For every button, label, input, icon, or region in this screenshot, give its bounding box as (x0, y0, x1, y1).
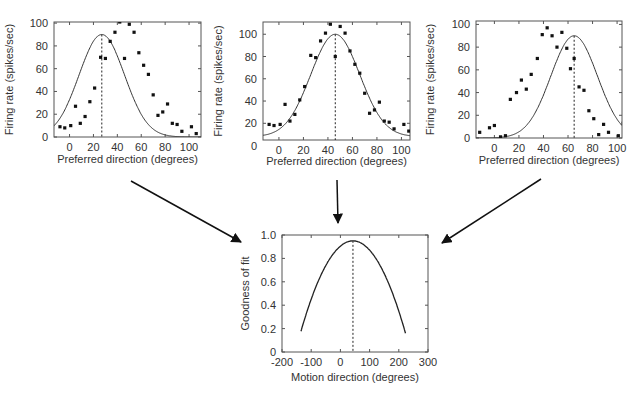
x-tick-label: 60 (135, 141, 147, 153)
data-point (319, 39, 322, 42)
y-tick-label: 0.6 (261, 276, 276, 288)
data-point (334, 55, 337, 58)
y-tick-label: 0 (270, 346, 276, 358)
x-tick-label: 100 (180, 141, 198, 153)
x-tick-label: 80 (159, 141, 171, 153)
x-tick-label: 0 (66, 141, 72, 153)
data-point (324, 32, 327, 35)
data-point (69, 124, 72, 127)
y-tick-label: 80 (36, 40, 48, 52)
data-point (358, 72, 361, 75)
panel-left-chart: 020406080100020406080100Preferred direct… (3, 17, 201, 165)
data-point (602, 123, 605, 126)
data-point (378, 101, 381, 104)
data-point (166, 102, 169, 105)
data-point (388, 121, 391, 124)
data-point (348, 49, 351, 52)
data-point (109, 40, 112, 43)
y-tick-label: 20 (245, 117, 257, 129)
x-tick-label: 100 (608, 142, 626, 154)
data-point (402, 123, 405, 126)
data-point (597, 133, 600, 136)
x-tick-label: 20 (87, 141, 99, 153)
panel-right-chart: 020406080100020406080100Preferred direct… (424, 18, 626, 166)
data-point (587, 109, 590, 112)
data-point (607, 131, 610, 134)
data-point (180, 130, 183, 133)
data-point (104, 57, 107, 60)
data-point (363, 92, 366, 95)
data-point (279, 123, 282, 126)
data-point (79, 122, 82, 125)
data-point (303, 85, 306, 88)
data-point (343, 32, 346, 35)
x-axis-label: Preferred direction (degrees) (57, 153, 198, 165)
figure-canvas: 020406080100020406080100Preferred direct… (0, 0, 637, 402)
data-point (137, 51, 140, 54)
data-point (368, 112, 371, 115)
data-point (546, 26, 549, 29)
arrow-right-to-bottom (442, 179, 541, 243)
y-tick-label: 0.2 (261, 323, 276, 335)
data-point (298, 98, 301, 101)
x-axis-label: Preferred direction (degrees) (266, 155, 407, 167)
arrow-middle-to-bottom (337, 180, 338, 223)
x-axis-label: Preferred direction (degrees) (479, 154, 620, 166)
data-point (156, 114, 159, 117)
data-point (520, 78, 523, 81)
data-point (541, 33, 544, 36)
y-tick-label: 1.0 (261, 229, 276, 241)
data-point (152, 93, 155, 96)
data-point (499, 135, 502, 138)
y-tick-label: 80 (458, 41, 470, 53)
data-point (550, 34, 553, 37)
y-tick-label: 60 (245, 73, 257, 85)
data-point (478, 131, 481, 134)
data-point (373, 108, 376, 111)
y-axis-label: Firing rate (spikes/sec) (212, 25, 224, 136)
data-point (175, 123, 178, 126)
y-tick-label: 0.4 (261, 299, 276, 311)
data-point (536, 57, 539, 60)
y-tick-label: 0.8 (261, 252, 276, 264)
data-point (525, 88, 528, 91)
panel-bottom-chart: -200-100010020030000.20.40.60.81.0Motion… (239, 229, 437, 383)
x-tick-label: 60 (562, 142, 574, 154)
data-point (190, 125, 193, 128)
data-point (515, 91, 518, 94)
fit-curve (476, 36, 622, 138)
data-point (63, 126, 66, 129)
data-point (530, 73, 533, 76)
y-tick-label: 100 (452, 18, 470, 30)
x-tick-label: 40 (111, 141, 123, 153)
data-point (272, 124, 275, 127)
y-tick-label: 0 (464, 132, 470, 144)
y-tick-label: 20 (36, 108, 48, 120)
data-point (314, 56, 317, 59)
y-tick-label: 80 (245, 51, 257, 63)
x-tick-label: 20 (513, 142, 525, 154)
data-point (132, 31, 135, 34)
data-point (288, 119, 291, 122)
data-point (560, 31, 563, 34)
data-point (58, 125, 61, 128)
data-point (488, 126, 491, 129)
fit-curve (263, 34, 410, 136)
y-tick-label: 100 (30, 17, 48, 29)
y-tick-label: 40 (245, 95, 257, 107)
x-tick-label: -100 (300, 356, 322, 368)
data-point (268, 123, 271, 126)
data-point (283, 103, 286, 106)
data-point (565, 47, 568, 50)
data-point (309, 54, 312, 57)
data-point (118, 20, 121, 23)
plot-frame (54, 22, 201, 137)
data-point (142, 64, 145, 67)
x-tick-label: 300 (419, 356, 437, 368)
data-point (93, 86, 96, 89)
arrow-left-to-bottom (131, 181, 241, 242)
plot-frame (282, 235, 428, 352)
data-point (407, 129, 410, 132)
y-tick-label: 20 (458, 109, 470, 121)
data-point (339, 25, 342, 28)
